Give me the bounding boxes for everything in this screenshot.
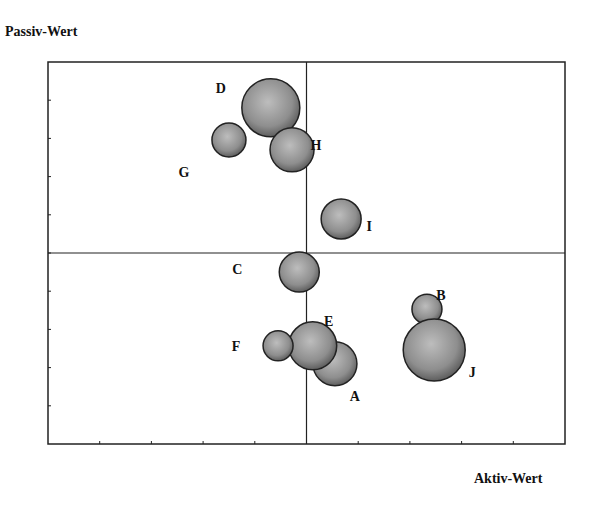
bubble-label-a: A <box>350 389 361 404</box>
bubble-label-b: B <box>436 288 445 303</box>
bubble-label-f: F <box>232 339 241 354</box>
bubble-c <box>279 252 319 292</box>
bubble-j <box>403 319 465 381</box>
bubble-label-e: E <box>324 314 333 329</box>
bubble-e <box>289 322 337 370</box>
bubble-h <box>270 128 314 172</box>
bubble-g <box>212 123 246 157</box>
bubble-layer <box>212 79 465 386</box>
bubble-label-g: G <box>179 165 190 180</box>
bubble-f <box>263 331 293 361</box>
bubble-label-j: J <box>469 365 476 380</box>
bubble-label-c: C <box>232 262 242 277</box>
bubble-i <box>321 199 361 239</box>
bubble-chart: ABCDEFGHIJ <box>0 0 590 513</box>
bubble-label-i: I <box>366 219 371 234</box>
bubble-label-h: H <box>311 138 322 153</box>
bubble-label-d: D <box>216 81 226 96</box>
